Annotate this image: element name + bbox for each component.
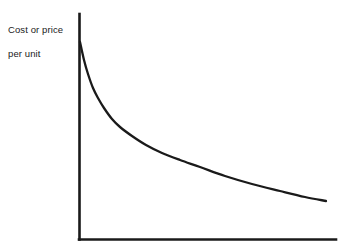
y-axis-label-line-1: Cost or price (8, 24, 74, 36)
y-axis-label-line-2: per unit (8, 48, 74, 60)
x-axis-label-clipped (79, 246, 336, 252)
chart-figure: Cost or price per unit (0, 0, 347, 252)
y-axis-label: Cost or price per unit (8, 12, 74, 72)
